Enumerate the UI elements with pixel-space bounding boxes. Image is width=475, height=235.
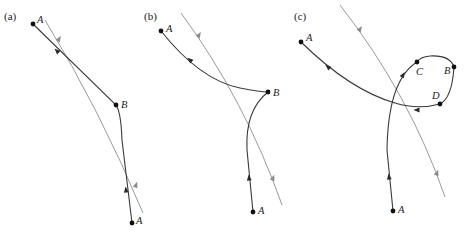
reference-path-b <box>181 13 282 205</box>
point-c-marker <box>415 60 420 65</box>
trail-arrows-c <box>324 63 420 180</box>
point-c-label: C <box>416 66 424 77</box>
point-a-label: A <box>397 204 405 215</box>
arrowhead-icon <box>56 35 63 43</box>
trail-arrows-b <box>186 56 252 181</box>
point-b-label: B <box>121 99 128 110</box>
point-a-label: A <box>135 215 143 226</box>
point-a-label: A <box>257 205 265 216</box>
point-a-label: A <box>36 14 44 25</box>
trajectory-diagram: (a) ABA (b) ABA (c) ACBDA <box>0 0 475 235</box>
arrowhead-icon <box>133 181 140 188</box>
point-a-label: A <box>165 23 173 34</box>
trail-path-b <box>161 31 268 212</box>
trail-path-a <box>33 24 132 223</box>
point-a-marker <box>159 29 164 34</box>
point-a-marker <box>391 209 396 214</box>
points-b: ABA <box>159 23 280 216</box>
point-a-marker <box>299 40 304 45</box>
arrowhead-icon <box>414 108 420 113</box>
panel-b: (b) ABA <box>144 10 282 216</box>
point-a-label: A <box>305 32 313 43</box>
point-b-label: B <box>444 65 451 76</box>
point-a-marker <box>31 22 36 27</box>
point-b-marker <box>114 103 119 108</box>
points-a: ABA <box>31 14 143 226</box>
point-d-marker <box>438 102 443 107</box>
point-a-marker <box>130 221 135 226</box>
point-b-marker <box>452 65 457 70</box>
arrowhead-icon <box>386 173 391 179</box>
panel-a: (a) ABA <box>4 10 143 226</box>
point-d-label: D <box>431 90 440 101</box>
arrowhead-icon <box>246 174 251 180</box>
panel-label-a: (a) <box>4 10 17 23</box>
arrowhead-icon <box>53 47 61 55</box>
panel-label-c: (c) <box>294 10 307 23</box>
point-b-marker <box>266 90 271 95</box>
point-a-marker <box>251 210 256 215</box>
reference-path-a <box>45 20 143 213</box>
panel-label-b: (b) <box>144 10 157 23</box>
trail-path-c <box>301 42 454 211</box>
panel-c: (c) ACBDA <box>294 5 456 215</box>
points-c: ACBDA <box>299 32 457 215</box>
trail-arrows-a <box>53 47 129 193</box>
point-b-label: B <box>273 87 280 98</box>
